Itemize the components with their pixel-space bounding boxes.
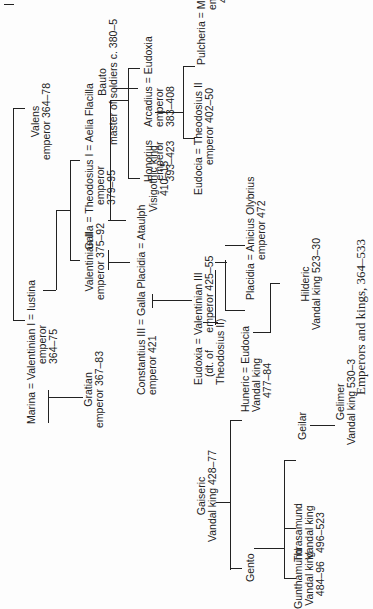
node-gaiseric: Gaiseric Vandal king 428–77 xyxy=(196,450,218,542)
node-theodosius-ii: Eudocia = Theodosius II emperor 402–50 xyxy=(193,82,215,195)
node-geilar: Geilar xyxy=(297,412,308,440)
node-hilderic: Hilderic Vandal king 523–30 xyxy=(300,238,322,330)
node-valentinian-iii: Eudoxia = Valentinian III (dt. of empero… xyxy=(193,256,226,385)
node-galla-placidia: Constantius III = Galla Placidia = Ataul… xyxy=(136,205,158,395)
node-bauto: Bauto master of soldiers c. 380–5 xyxy=(97,19,119,145)
genealogy-page: Marina = Valentinian I = Iustina emperor… xyxy=(0,0,373,609)
node-pulcheria: Pulcheria = Marcian emperor 450–7 xyxy=(196,0,229,65)
node-honorius: Honorius emperor 393–423 xyxy=(143,140,176,182)
node-gratian: Gratian emperor 367–83 xyxy=(83,351,105,428)
node-gento: Gento xyxy=(245,553,256,582)
figure-caption: Emperors and kings, 364–533 xyxy=(355,239,366,395)
node-huneric: Huneric = Eudocia Vandal king 477–84 xyxy=(240,326,273,412)
node-valentinian-i: Marina = Valentinian I = Iustina emperor… xyxy=(26,280,59,424)
valentinian-valens-sibling-line xyxy=(13,108,14,320)
node-placidia: Placidia = Anicius Olybrius emperor 472 xyxy=(245,177,267,300)
node-thrasamund: Thrasamund Vandal king 496–523 xyxy=(293,503,326,562)
node-valens: Valens emperor 364–78 xyxy=(30,83,52,160)
node-arcadius: Arcadius = Eudoxia emperor 383–408 xyxy=(143,36,176,127)
